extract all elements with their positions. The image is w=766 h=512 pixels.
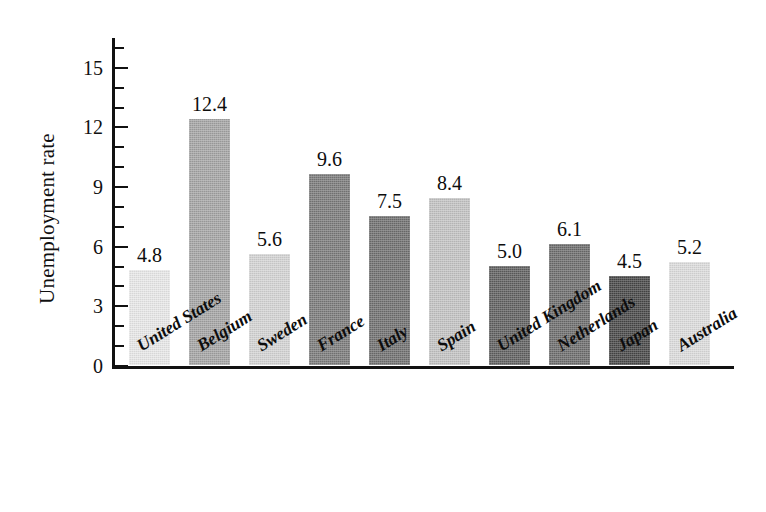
bar-value-label: 8.4 <box>437 173 462 193</box>
bar-value-label: 5.2 <box>677 237 702 257</box>
y-tick-label: 0 <box>93 356 103 376</box>
bar-value-label: 12.4 <box>192 94 227 114</box>
bar-value-label: 6.1 <box>557 219 582 239</box>
x-axis-line <box>112 366 734 369</box>
tick-mark <box>115 67 128 69</box>
bar-value-label: 4.8 <box>137 245 162 265</box>
tick-mark <box>115 126 128 128</box>
y-tick-label: 12 <box>83 117 103 137</box>
tick-mark <box>115 107 124 109</box>
tick-mark <box>115 186 128 188</box>
tick-mark <box>115 305 128 307</box>
y-axis-title: Unemployment rate <box>35 104 60 334</box>
tick-mark <box>115 246 128 248</box>
tick-mark <box>115 226 124 228</box>
bar-value-label: 9.6 <box>317 149 342 169</box>
bar-value-label: 4.5 <box>617 251 642 271</box>
tick-mark <box>115 325 124 327</box>
tick-mark <box>115 87 124 89</box>
tick-mark <box>115 206 124 208</box>
bar-value-label: 5.6 <box>257 229 282 249</box>
tick-mark <box>115 146 124 148</box>
tick-mark <box>115 266 124 268</box>
bar-value-label: 7.5 <box>377 191 402 211</box>
y-tick-label: 15 <box>83 58 103 78</box>
tick-mark <box>115 345 124 347</box>
plot-area: 03691215 4.812.45.69.67.58.45.06.14.55.2 <box>112 38 734 368</box>
tick-mark <box>115 166 124 168</box>
tick-mark <box>115 285 124 287</box>
y-tick-label: 9 <box>93 177 103 197</box>
bar-value-label: 5.0 <box>497 241 522 261</box>
y-tick-label: 6 <box>93 237 103 257</box>
y-tick-label: 3 <box>93 296 103 316</box>
tick-mark <box>115 47 124 49</box>
bar-chart: Unemployment rate 03691215 4.812.45.69.6… <box>0 0 766 512</box>
tick-mark <box>115 365 128 367</box>
